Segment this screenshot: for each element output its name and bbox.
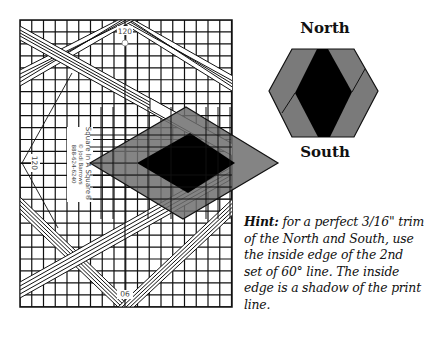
angle-label-top: 120 — [118, 27, 133, 36]
hint-prefix: Hint: — [244, 214, 279, 229]
north-label: North — [285, 19, 365, 37]
angle-label-bottom: 90 — [120, 289, 130, 298]
svg-text:© Jodi Barrows: © Jodi Barrows — [77, 143, 84, 184]
svg-text:888-624-6240: 888-624-6240 — [71, 145, 77, 184]
angle-label-left: 120 — [30, 156, 39, 171]
south-label: South — [285, 143, 365, 161]
hint-text: Hint: for a perfect 3/16" trim of the No… — [244, 214, 424, 313]
hexagon-block — [269, 49, 378, 137]
